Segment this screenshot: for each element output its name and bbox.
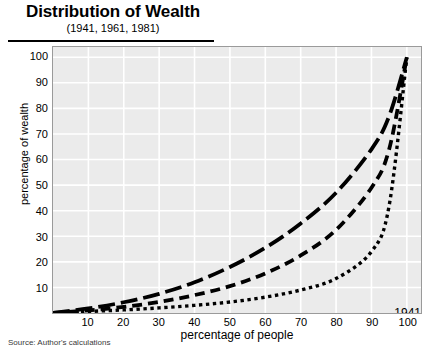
source-note: Source: Author's calculations <box>8 338 110 348</box>
y-axis-title: percentage of wealth <box>18 74 30 234</box>
title-divider <box>8 40 214 42</box>
series-line-1961 <box>53 57 407 313</box>
series-lines <box>53 47 421 313</box>
page-title: Distribution of Wealth <box>10 2 216 22</box>
series-line-1941 <box>53 57 407 313</box>
y-tick-20: 20 <box>14 257 48 268</box>
chart-legend: 1941 1961 1981 <box>387 305 422 314</box>
chart-subtitle: (1941, 1961, 1981) <box>10 22 216 35</box>
series-line-1981 <box>53 57 407 313</box>
legend-label-1941: 1941 <box>387 305 421 314</box>
legend-row-1941: 1941 <box>387 305 422 314</box>
y-tick-100: 100 <box>14 51 48 62</box>
plot-area: 1941 1961 1981 <box>52 46 422 314</box>
y-tick-10: 10 <box>14 283 48 294</box>
